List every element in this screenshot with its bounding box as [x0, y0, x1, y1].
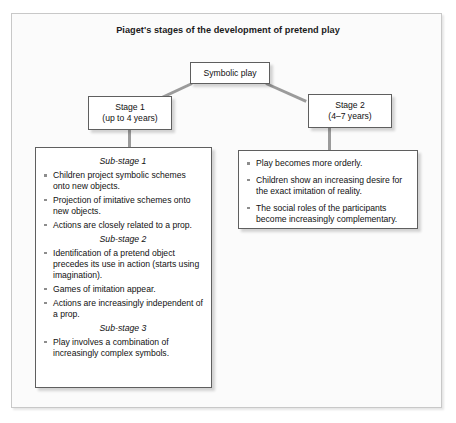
substage-3-list: Play involves a combination of increasin…	[43, 337, 203, 359]
node-symbolic-play-label: Symbolic play	[203, 68, 256, 79]
list-item: Projection of imitative schemes onto new…	[43, 195, 203, 217]
substage-2-list: Identification of a pretend object prece…	[43, 248, 203, 320]
connector-stage2-to-panel	[328, 127, 331, 151]
substage-1-heading: Sub-stage 1	[43, 156, 203, 166]
list-item: Actions are increasingly independent of …	[43, 298, 203, 320]
node-symbolic-play: Symbolic play	[190, 62, 270, 84]
connector-stage1-to-panel	[128, 129, 131, 148]
panel-stage-1-details: Sub-stage 1 Children project symbolic sc…	[35, 147, 212, 388]
substage-1-list: Children project symbolic schemes onto n…	[43, 170, 203, 231]
list-item: Play involves a combination of increasin…	[43, 337, 203, 359]
list-item: The social roles of the participants bec…	[246, 203, 409, 225]
list-item: Games of imitation appear.	[43, 284, 203, 295]
stage-2-list: Play becomes more orderly. Children show…	[246, 158, 409, 225]
panel-stage-2-details: Play becomes more orderly. Children show…	[238, 150, 418, 229]
list-item: Children show an increasing desire for t…	[246, 175, 409, 197]
list-item: Children project symbolic schemes onto n…	[43, 170, 203, 192]
node-stage-1-title: Stage 1	[115, 102, 145, 113]
substage-2-heading: Sub-stage 2	[43, 234, 203, 244]
diagram-canvas: Piaget's stages of the development of pr…	[0, 0, 456, 423]
node-stage-2: Stage 2 (4–7 years)	[308, 94, 392, 128]
node-stage-2-title: Stage 2	[335, 100, 365, 111]
node-stage-1: Stage 1 (up to 4 years)	[88, 96, 172, 130]
list-item: Identification of a pretend object prece…	[43, 248, 203, 282]
list-item: Play becomes more orderly.	[246, 158, 409, 169]
node-stage-1-age: (up to 4 years)	[102, 113, 157, 124]
list-item: Actions are closely related to a prop.	[43, 220, 203, 231]
page-title: Piaget's stages of the development of pr…	[0, 25, 456, 35]
substage-3-heading: Sub-stage 3	[43, 323, 203, 333]
node-stage-2-age: (4–7 years)	[328, 111, 371, 122]
